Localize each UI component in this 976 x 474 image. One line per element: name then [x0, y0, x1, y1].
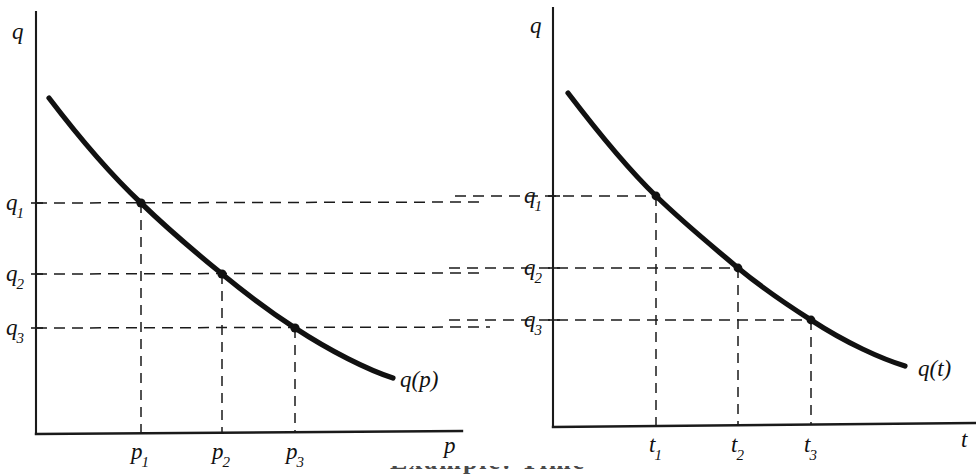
- left-xtick-p2: p2: [212, 440, 231, 466]
- left-xtick-p3-base: p: [286, 439, 298, 464]
- right-ytick-q2-sub: 2: [535, 270, 543, 286]
- left-xtick-p3: p3: [286, 440, 305, 466]
- right-chart-group: [553, 8, 976, 427]
- figure-svg: [0, 0, 976, 474]
- right-ytick-q2-base: q: [524, 255, 536, 280]
- data-point-t1-q1: [652, 192, 661, 201]
- left-ytick-q1: q1: [6, 191, 25, 217]
- left-xtick-p2-base: p: [212, 439, 224, 464]
- guide-line-q3-left: [36, 327, 490, 328]
- left-ytick-q1-sub: 1: [17, 205, 25, 221]
- left-ytick-q2-sub: 2: [17, 276, 25, 292]
- left-x-axis: [36, 431, 462, 434]
- left-chart-group: [36, 12, 462, 434]
- left-xtick-p1: p1: [131, 440, 150, 466]
- left-ytick-q2: q2: [6, 262, 25, 288]
- left-xtick-p2-sub: 2: [223, 454, 231, 470]
- right-vertical-drop-lines: [656, 196, 811, 427]
- left-xtick-p1-base: p: [131, 439, 143, 464]
- right-ytick-q1-sub: 1: [535, 198, 543, 214]
- guide-line-q1-left: [36, 202, 482, 203]
- left-curve-label: q(p): [400, 368, 438, 391]
- left-ytick-q3: q3: [6, 316, 25, 342]
- right-ytick-q3: q3: [524, 308, 543, 334]
- left-vertical-drop-lines: [141, 203, 295, 434]
- right-x-axis-label: t: [961, 428, 967, 451]
- right-demand-curve: [568, 93, 905, 366]
- right-xtick-t3: t3: [804, 433, 818, 459]
- left-curve-arg: p: [419, 367, 431, 392]
- right-ytick-q1-base: q: [524, 183, 536, 208]
- right-x-axis: [553, 423, 976, 427]
- left-curve-close-paren: ): [431, 367, 439, 392]
- right-ytick-q3-base: q: [524, 307, 536, 332]
- data-point-p3-q3: [290, 323, 299, 332]
- guide-line-q2-left: [36, 273, 486, 274]
- right-ytick-q1: q1: [524, 184, 543, 210]
- right-ytick-q3-sub: 3: [535, 322, 543, 338]
- right-y-axis-label: q: [530, 14, 542, 37]
- left-xtick-p1-sub: 1: [142, 454, 150, 470]
- left-y-axis-label: q: [12, 20, 24, 43]
- left-xtick-p3-sub: 3: [297, 454, 305, 470]
- data-point-t2-q2: [734, 264, 743, 273]
- left-ytick-q3-base: q: [6, 315, 18, 340]
- left-ytick-q3-sub: 3: [17, 330, 25, 346]
- right-ytick-q2: q2: [524, 256, 543, 282]
- data-point-p2-q2: [217, 269, 226, 278]
- left-ytick-q2-base: q: [6, 261, 18, 286]
- figure-canvas: q p q1 q2 q3 p1 p2 p3 q(p) q t q1 q2 q3 …: [0, 0, 976, 474]
- right-xtick-t2-sub: 2: [736, 447, 744, 463]
- right-xtick-t2: t2: [731, 433, 745, 459]
- left-curve-fn: q: [400, 367, 412, 392]
- right-xtick-t3-sub: 3: [809, 447, 817, 463]
- left-demand-curve: [49, 98, 393, 378]
- data-point-p1-q1: [136, 198, 145, 207]
- right-xtick-t1: t1: [649, 433, 663, 459]
- right-xtick-t1-sub: 1: [654, 447, 662, 463]
- data-point-t3-q3: [807, 316, 816, 325]
- right-curve-fn: q: [918, 356, 930, 381]
- left-ytick-q1-base: q: [6, 190, 18, 215]
- right-curve-close-paren: ): [944, 356, 952, 381]
- left-x-axis-label: p: [444, 434, 456, 457]
- right-curve-label: q(t): [918, 357, 951, 380]
